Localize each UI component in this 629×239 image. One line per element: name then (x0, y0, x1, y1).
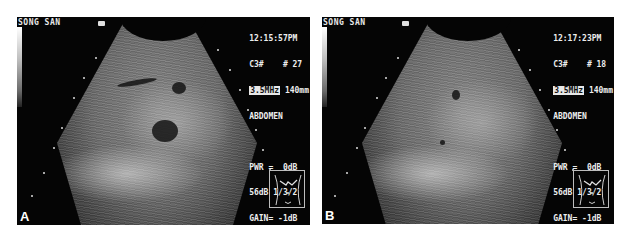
grayscale-bar (322, 27, 327, 107)
scan-time: 12:17:23PM (553, 35, 613, 44)
frequency: 3.5MHz (553, 86, 584, 95)
frequency: 3.5MHz (249, 86, 280, 95)
ultrasound-panel-b: SONG SAN 12:17:23PM C3# # 18 3.5MHz 140m… (322, 17, 614, 224)
preset: ABDOMEN (249, 113, 309, 122)
probe-type: C3# (249, 60, 263, 69)
freq-depth: 3.5MHz 140mm (553, 87, 613, 96)
spacer (249, 138, 309, 146)
scan-time: 12:15:57PM (249, 35, 309, 44)
portal-vein (172, 82, 186, 94)
orientation-marker-icon (402, 21, 409, 26)
ultrasound-sector-image (57, 20, 257, 225)
hepatic-vessel (452, 90, 460, 100)
frame-number: # 27 (283, 60, 302, 69)
panel-label: A (20, 210, 29, 223)
frame-number: # 18 (587, 60, 606, 69)
depth: 140mm (285, 86, 309, 95)
ultrasound-sector-image (362, 20, 562, 224)
patient-name: SONG SAN (18, 18, 61, 27)
probe-type: C3# (553, 60, 567, 69)
depth: 140mm (589, 86, 613, 95)
grayscale-bar (17, 27, 22, 107)
probe-frame: C3# # 18 (553, 61, 613, 70)
spacer (553, 138, 613, 146)
preset: ABDOMEN (553, 113, 613, 122)
patient-name: SONG SAN (323, 18, 366, 27)
abdomen-body-marker-icon (269, 170, 305, 208)
probe-frame: C3# # 27 (249, 61, 309, 70)
panel-label: B (325, 209, 334, 222)
orientation-marker-icon (98, 21, 105, 26)
gain: GAIN= -1dB (553, 215, 613, 224)
ultrasound-panel-a: SONG SAN 12:15:57PM C3# # 27 3.5MHz 140m… (17, 17, 310, 225)
hepatic-vessel (440, 140, 445, 145)
hepatic-vessel (117, 77, 157, 89)
freq-depth: 3.5MHz 140mm (249, 87, 309, 96)
gain: GAIN= -1dB (249, 215, 309, 224)
hypoechoic-lesion (152, 120, 178, 142)
abdomen-body-marker-icon (573, 170, 609, 208)
